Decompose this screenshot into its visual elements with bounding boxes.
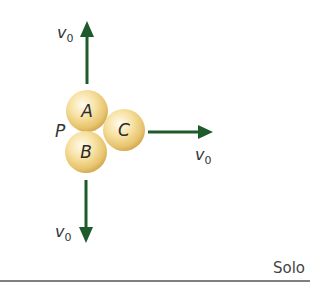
svg-text:A: A [80, 101, 93, 121]
velocity-arrow-right [148, 125, 213, 139]
svg-text:C: C [118, 120, 130, 140]
velocity-label-right: v0 [195, 145, 211, 167]
diagram-canvas: v0 A C B P v0 v0 Solo [0, 0, 324, 293]
ground-label: Solo [273, 259, 305, 277]
velocity-label-down: v0 [55, 222, 71, 244]
velocity-label-up: v0 [57, 23, 73, 45]
velocity-arrow-down [79, 180, 93, 243]
velocity-arrow-up [80, 21, 94, 84]
ball-b: B [65, 131, 107, 173]
diagram-svg: v0 A C B P v0 v0 Solo [0, 0, 324, 293]
ball-c: C [103, 109, 145, 151]
ball-a: A [66, 90, 108, 132]
point-label-p: P [55, 121, 66, 141]
svg-text:B: B [80, 142, 92, 162]
